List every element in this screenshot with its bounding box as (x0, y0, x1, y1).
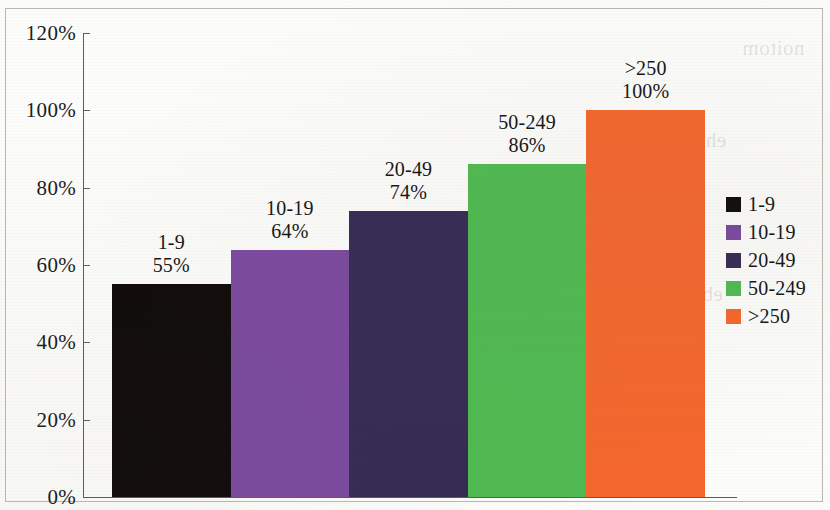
legend-item-label: >250 (748, 306, 790, 326)
legend-color-swatch-icon (726, 281, 741, 296)
y-axis-tick-mark (83, 110, 90, 111)
chart-legend: 1-910-1920-4950-249>250 (726, 190, 806, 330)
legend-color-swatch-icon (726, 309, 741, 324)
bar-label-group: 20-4974% (331, 158, 486, 204)
legend-item-label: 1-9 (748, 194, 775, 214)
y-axis-tick-mark (83, 420, 90, 421)
legend-item-label: 20-49 (748, 250, 796, 270)
bar-category-label: 50-249 (450, 111, 605, 134)
y-axis-tick-label: 100% (4, 100, 76, 121)
bar-value-label: 100% (568, 80, 723, 103)
bar-chart-plot: 120%100%80%60%40%20%0% 1-955%10-1964%20-… (0, 0, 830, 510)
bar-10-19[interactable] (231, 250, 350, 497)
y-axis-tick-mark (83, 188, 90, 189)
legend-color-swatch-icon (726, 225, 741, 240)
bar-1-9[interactable] (112, 284, 231, 497)
y-axis-tick-mark (83, 265, 90, 266)
y-axis-tick-label: 80% (4, 178, 76, 199)
y-axis-tick-label: 40% (4, 332, 76, 353)
y-axis-tick-label: 60% (4, 255, 76, 276)
bar-value-label: 55% (94, 254, 249, 277)
legend-item[interactable]: 20-49 (726, 246, 806, 274)
legend-item[interactable]: 1-9 (726, 190, 806, 218)
x-axis-baseline (83, 497, 737, 498)
y-axis-tick-mark (83, 33, 90, 34)
bar-label-group: >250100% (568, 57, 723, 103)
bar-category-label: >250 (568, 57, 723, 80)
bar-20-49[interactable] (349, 211, 468, 497)
y-axis-tick-label: 120% (4, 23, 76, 44)
legend-color-swatch-icon (726, 253, 741, 268)
y-axis-tick-label: 20% (4, 410, 76, 431)
bar-value-label: 86% (450, 134, 605, 157)
bar-category-label: 20-49 (331, 158, 486, 181)
bar-250[interactable] (586, 110, 705, 497)
bar-series: 1-955%10-1964%20-4974%50-24986%>250100% (112, 33, 705, 497)
y-axis-tick-mark (83, 497, 90, 498)
bar-50-249[interactable] (468, 164, 587, 497)
chart-page: noitomeht nicommunowt ehteraperpself Pro… (0, 0, 830, 510)
bar-value-label: 64% (213, 220, 368, 243)
legend-item[interactable]: 10-19 (726, 218, 806, 246)
legend-color-swatch-icon (726, 197, 741, 212)
y-axis-tick-label: 0% (4, 487, 76, 508)
y-axis-tick-mark (83, 342, 90, 343)
bar-value-label: 74% (331, 181, 486, 204)
legend-item-label: 50-249 (748, 278, 806, 298)
legend-item[interactable]: >250 (726, 302, 806, 330)
legend-item-label: 10-19 (748, 222, 796, 242)
bar-label-group: 50-24986% (450, 111, 605, 157)
legend-item[interactable]: 50-249 (726, 274, 806, 302)
